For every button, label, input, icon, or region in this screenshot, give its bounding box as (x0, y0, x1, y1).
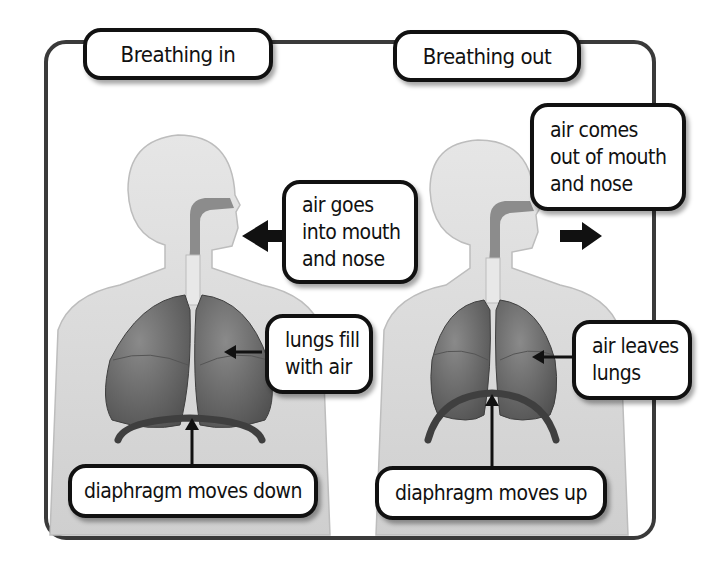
arrow-out-of-mouth-icon (560, 222, 602, 250)
callout-diaphragm-up: diaphragm moves up (375, 466, 607, 520)
callout-air-leaves-lungs: air leaves lungs (572, 320, 692, 400)
callout-air-out-of-mouth: air comes out of mouth and nose (530, 103, 686, 211)
callout-air-into-mouth: air goes into mouth and nose (282, 180, 418, 284)
title-breathing-out: Breathing out (393, 30, 581, 82)
callout-lungs-fill: lungs fill with air (265, 314, 373, 394)
title-breathing-in: Breathing in (83, 28, 273, 80)
callout-diaphragm-down: diaphragm moves down (68, 464, 318, 518)
